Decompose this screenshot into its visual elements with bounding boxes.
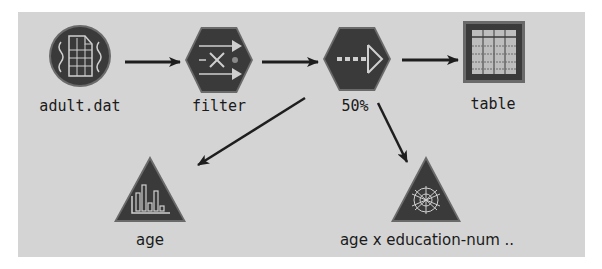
table-grid-icon xyxy=(463,21,525,83)
node-label-table: table xyxy=(470,95,515,113)
histogram-icon xyxy=(114,156,186,222)
node-table[interactable] xyxy=(463,21,525,83)
node-label-age: age xyxy=(136,231,164,249)
edge-sample-web[interactable] xyxy=(378,103,407,162)
node-adult-dat[interactable] xyxy=(48,24,112,88)
node-sample-50[interactable] xyxy=(322,26,392,92)
node-label-sample-50: 50% xyxy=(341,97,368,115)
node-age-histogram[interactable] xyxy=(114,156,186,222)
node-web-age-education[interactable] xyxy=(391,156,461,222)
sample-arrow-icon xyxy=(322,26,392,92)
web-graph-icon xyxy=(391,156,461,222)
node-label-age-education: age x education-num .. xyxy=(340,231,514,249)
node-filter[interactable] xyxy=(184,26,254,94)
node-label-adult-dat: adult.dat xyxy=(39,97,120,115)
node-label-filter: filter xyxy=(192,97,246,115)
filter-icon xyxy=(184,26,254,94)
data-file-icon xyxy=(48,24,112,88)
